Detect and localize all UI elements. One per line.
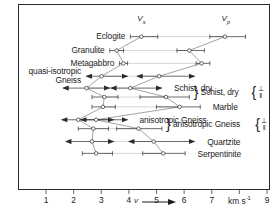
header-vs: Vs — [137, 14, 145, 25]
parallel-symbol: ‖ — [258, 92, 264, 100]
axis-variable-arrow: v — [0, 196, 279, 210]
row-label-line: Granulite — [0, 46, 105, 55]
anisotropy-brace-left: } — [166, 117, 171, 131]
row-label-line: Eclogite — [0, 32, 125, 41]
row-label-quartzite: Quartzite — [207, 138, 240, 147]
anisotropy-label: anisotropic Gneiss — [173, 120, 240, 129]
anisotropy-symbols: ⊥‖ — [261, 117, 267, 132]
row-label-quasi-isotropic-gneiss: quasi-isotropicGneiss — [0, 67, 81, 85]
parallel-symbol: ‖ — [261, 124, 267, 132]
anisotropy-brace-right: { — [252, 85, 257, 99]
figure-seismic-velocities: EclogiteGranuliteMetagabbroquasi-isotrop… — [0, 0, 279, 220]
anisotropy-brace-right: { — [255, 117, 260, 131]
header-vp: Vp — [222, 14, 230, 25]
anisotropy-brace-left: } — [194, 85, 199, 99]
axis-arrow-icon — [0, 196, 279, 210]
row-label-line: Marble — [213, 103, 238, 112]
perpendicular-symbol: ⊥ — [258, 85, 264, 93]
row-label-granulite: Granulite — [0, 46, 105, 55]
row-label-line: Quartzite — [207, 138, 240, 147]
anisotropy-label: Schist, dry — [201, 88, 239, 97]
row-label-line: Gneiss — [0, 76, 81, 85]
row-label-marble: Marble — [213, 103, 238, 112]
row-label-eclogite: Eclogite — [0, 32, 125, 41]
row-label-serpentinite: Serpentinite — [198, 150, 242, 159]
perpendicular-symbol: ⊥ — [261, 117, 267, 125]
anisotropy-symbols: ⊥‖ — [258, 85, 264, 100]
figure-caption — [4, 210, 276, 220]
row-label-line: Serpentinite — [198, 150, 242, 159]
